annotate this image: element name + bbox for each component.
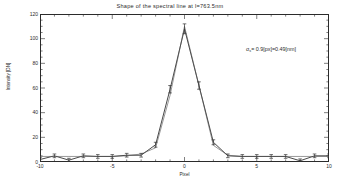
x-tick-label: 5 xyxy=(255,164,258,169)
sigma-annotation: σs= 0.9[px]=0.49[nm] xyxy=(246,46,296,53)
y-tick-label: 120 xyxy=(16,12,38,17)
plot-canvas xyxy=(40,14,329,162)
y-tick-label: 100 xyxy=(16,36,38,41)
chart-title: Shape of the spectral line at l=763.5nm xyxy=(0,3,340,9)
y-axis-title: Intensity [DN] xyxy=(6,45,11,109)
y-tick-label: 0 xyxy=(16,160,38,165)
y-tick-label: 20 xyxy=(16,135,38,140)
y-tick-label: 80 xyxy=(16,61,38,66)
y-axis-tick-labels: 020406080100120 xyxy=(12,14,38,162)
x-tick-label: 10 xyxy=(326,164,332,169)
x-tick-label: -5 xyxy=(110,164,114,169)
x-tick-label: 0 xyxy=(183,164,186,169)
y-tick-label: 60 xyxy=(16,86,38,91)
x-axis-title: Pixel xyxy=(40,172,329,177)
y-tick-label: 40 xyxy=(16,110,38,115)
x-tick-label: -10 xyxy=(36,164,43,169)
sigma-value: = 0.9[px]=0.49[nm] xyxy=(251,46,296,52)
chart-figure: Shape of the spectral line at l=763.5nm … xyxy=(0,0,340,186)
